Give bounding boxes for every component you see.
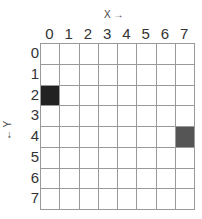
grid-cell[interactable] xyxy=(157,44,176,65)
grid-cell[interactable] xyxy=(80,169,99,190)
column-label: 4 xyxy=(117,25,136,42)
grid-cell[interactable] xyxy=(118,169,137,190)
row-label: 7 xyxy=(27,188,39,208)
grid-cell[interactable] xyxy=(60,44,79,65)
grid-cell[interactable] xyxy=(99,44,118,65)
grid-cell[interactable] xyxy=(80,65,99,86)
grid xyxy=(40,43,195,210)
grid-cell[interactable] xyxy=(80,148,99,169)
grid-cell[interactable] xyxy=(60,86,79,107)
x-axis-title: X → xyxy=(104,9,123,20)
grid-cell[interactable] xyxy=(137,169,156,190)
row-label: 5 xyxy=(27,147,39,167)
grid-cell[interactable] xyxy=(137,65,156,86)
column-label: 6 xyxy=(156,25,175,42)
grid-cell[interactable] xyxy=(80,44,99,65)
grid-cell[interactable] xyxy=(99,148,118,169)
grid-cell[interactable] xyxy=(41,44,60,65)
row-label: 6 xyxy=(27,168,39,188)
grid-cell[interactable] xyxy=(80,189,99,210)
grid-cell[interactable] xyxy=(176,189,195,210)
grid-cell[interactable] xyxy=(99,65,118,86)
grid-cell[interactable] xyxy=(60,106,79,127)
grid-cell[interactable] xyxy=(157,189,176,210)
row-label: 0 xyxy=(27,43,39,63)
grid-cell[interactable] xyxy=(99,86,118,107)
row-label: 1 xyxy=(27,64,39,84)
grid-cell[interactable] xyxy=(137,44,156,65)
grid-cell[interactable] xyxy=(99,169,118,190)
row-label: 2 xyxy=(27,85,39,105)
column-label: 1 xyxy=(59,25,78,42)
grid-cell[interactable] xyxy=(99,127,118,148)
grid-cell[interactable] xyxy=(99,106,118,127)
grid-cell[interactable] xyxy=(157,106,176,127)
grid-cell[interactable] xyxy=(60,189,79,210)
grid-cell[interactable] xyxy=(137,189,156,210)
grid-cell[interactable] xyxy=(41,106,60,127)
y-axis-title: ← Y xyxy=(2,121,13,140)
grid-cell[interactable] xyxy=(176,169,195,190)
grid-cell[interactable] xyxy=(157,127,176,148)
grid-cell[interactable] xyxy=(80,86,99,107)
grid-cell[interactable] xyxy=(157,148,176,169)
grid-cell[interactable] xyxy=(118,106,137,127)
grid-cell[interactable] xyxy=(80,106,99,127)
grid-cell[interactable] xyxy=(118,148,137,169)
grid-cell[interactable] xyxy=(157,169,176,190)
grid-cell[interactable] xyxy=(176,65,195,86)
column-label: 5 xyxy=(136,25,155,42)
grid-cell[interactable] xyxy=(118,44,137,65)
grid-cell[interactable] xyxy=(41,169,60,190)
grid-cell[interactable] xyxy=(118,65,137,86)
grid-cell[interactable] xyxy=(176,86,195,107)
grid-cell[interactable] xyxy=(176,106,195,127)
grid-cell[interactable] xyxy=(176,148,195,169)
grid-cell[interactable] xyxy=(137,106,156,127)
grid-cell[interactable] xyxy=(157,86,176,107)
column-label: 2 xyxy=(79,25,98,42)
row-label: 4 xyxy=(27,126,39,146)
grid-cell[interactable] xyxy=(118,86,137,107)
grid-cell[interactable] xyxy=(60,148,79,169)
grid-cell[interactable] xyxy=(80,127,99,148)
column-label: 7 xyxy=(175,25,194,42)
grid-cell[interactable] xyxy=(137,86,156,107)
column-label: 3 xyxy=(98,25,117,42)
grid-cell[interactable] xyxy=(41,65,60,86)
filled-cell[interactable] xyxy=(176,127,195,148)
column-label: 0 xyxy=(40,25,59,42)
row-label: 3 xyxy=(27,105,39,125)
grid-cell[interactable] xyxy=(41,148,60,169)
grid-cell[interactable] xyxy=(60,127,79,148)
grid-cell[interactable] xyxy=(157,65,176,86)
filled-cell[interactable] xyxy=(41,86,60,107)
grid-cell[interactable] xyxy=(137,148,156,169)
grid-cell[interactable] xyxy=(60,65,79,86)
grid-cell[interactable] xyxy=(41,189,60,210)
grid-cell[interactable] xyxy=(118,189,137,210)
grid-cell[interactable] xyxy=(176,44,195,65)
grid-cell[interactable] xyxy=(137,127,156,148)
grid-cell[interactable] xyxy=(118,127,137,148)
grid-cell[interactable] xyxy=(99,189,118,210)
grid-cell[interactable] xyxy=(60,169,79,190)
grid-cell[interactable] xyxy=(41,127,60,148)
